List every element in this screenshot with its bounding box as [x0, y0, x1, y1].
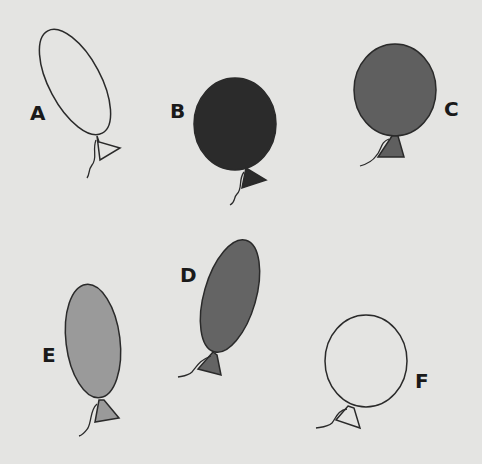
balloon-a-label: A [30, 101, 46, 125]
balloon-b-label: B [170, 99, 185, 123]
balloon-f[interactable]: F [316, 315, 429, 428]
balloon-d[interactable]: D [178, 233, 271, 377]
balloon-a[interactable]: A [25, 19, 125, 178]
balloon-c[interactable]: C [354, 44, 459, 166]
balloon-e[interactable]: E [42, 281, 127, 436]
balloon-e-label: E [42, 343, 56, 367]
balloon-b[interactable]: B [170, 78, 276, 205]
balloon-scene: A B C D E F [0, 0, 482, 464]
balloon-d-label: D [180, 263, 197, 287]
balloon-c-label: C [444, 97, 459, 121]
balloon-f-label: F [415, 369, 429, 393]
